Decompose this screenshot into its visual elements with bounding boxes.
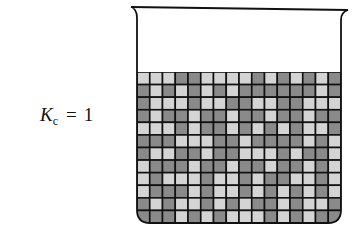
dark-molecule-cell [252,198,265,211]
light-molecule-cell [163,97,176,110]
dark-molecule-cell [214,110,227,123]
light-molecule-cell [163,173,176,186]
dark-molecule-cell [239,173,252,186]
dark-molecule-cell [316,148,329,161]
light-molecule-cell [303,173,316,186]
dark-molecule-cell [163,160,176,173]
dark-molecule-cell [252,72,265,85]
light-molecule-cell [150,198,163,211]
dark-molecule-cell [328,85,341,98]
light-molecule-cell [214,97,227,110]
dark-molecule-cell [239,160,252,173]
dark-molecule-cell [150,210,163,223]
light-molecule-cell [175,173,188,186]
dark-molecule-cell [290,135,303,148]
dark-molecule-cell [316,185,329,198]
light-molecule-cell [150,110,163,123]
dark-molecule-cell [316,210,329,223]
light-molecule-cell [150,148,163,161]
dark-molecule-cell [303,72,316,85]
light-molecule-cell [316,85,329,98]
light-molecule-cell [328,148,341,161]
dark-molecule-cell [137,110,150,123]
light-molecule-cell [303,110,316,123]
dark-molecule-cell [290,97,303,110]
light-molecule-cell [239,198,252,211]
light-molecule-cell [175,85,188,98]
light-molecule-cell [277,185,290,198]
dark-molecule-cell [239,122,252,135]
dark-molecule-cell [265,85,278,98]
dark-molecule-cell [175,148,188,161]
light-molecule-cell [252,148,265,161]
dark-molecule-cell [226,97,239,110]
light-molecule-cell [188,198,201,211]
dark-molecule-cell [328,72,341,85]
light-molecule-cell [252,122,265,135]
dark-molecule-cell [290,110,303,123]
dark-molecule-cell [188,210,201,223]
light-molecule-cell [188,160,201,173]
dark-molecule-cell [226,148,239,161]
light-molecule-cell [316,198,329,211]
dark-molecule-cell [137,148,150,161]
dark-molecule-cell [277,173,290,186]
light-molecule-cell [188,185,201,198]
dark-molecule-cell [137,97,150,110]
light-molecule-cell [239,72,252,85]
light-molecule-cell [239,135,252,148]
dark-molecule-cell [226,198,239,211]
dark-molecule-cell [265,198,278,211]
light-molecule-cell [150,85,163,98]
light-molecule-cell [163,72,176,85]
dark-molecule-cell [188,85,201,98]
light-molecule-cell [252,210,265,223]
dark-molecule-cell [175,110,188,123]
dark-molecule-cell [252,135,265,148]
light-molecule-cell [252,97,265,110]
beaker-diagram [0,0,364,230]
light-molecule-cell [239,210,252,223]
light-molecule-cell [303,97,316,110]
light-molecule-cell [252,173,265,186]
light-molecule-cell [303,185,316,198]
dark-molecule-cell [316,110,329,123]
light-molecule-cell [201,97,214,110]
molecule-grid [137,72,341,223]
light-molecule-cell [150,97,163,110]
light-molecule-cell [265,97,278,110]
light-molecule-cell [175,97,188,110]
light-molecule-cell [201,135,214,148]
light-molecule-cell [201,85,214,98]
light-molecule-cell [201,148,214,161]
dark-molecule-cell [214,85,227,98]
light-molecule-cell [277,210,290,223]
dark-molecule-cell [277,148,290,161]
dark-molecule-cell [290,160,303,173]
light-molecule-cell [265,110,278,123]
light-molecule-cell [265,72,278,85]
light-molecule-cell [214,173,227,186]
light-molecule-cell [226,185,239,198]
light-molecule-cell [214,198,227,211]
light-molecule-cell [163,122,176,135]
dark-molecule-cell [303,85,316,98]
light-molecule-cell [137,160,150,173]
dark-molecule-cell [265,185,278,198]
light-molecule-cell [328,135,341,148]
dark-molecule-cell [163,85,176,98]
dark-molecule-cell [175,122,188,135]
light-molecule-cell [303,122,316,135]
light-molecule-cell [175,198,188,211]
dark-molecule-cell [150,160,163,173]
light-molecule-cell [137,122,150,135]
dark-molecule-cell [163,210,176,223]
light-molecule-cell [277,122,290,135]
light-molecule-cell [316,97,329,110]
dark-molecule-cell [277,72,290,85]
light-molecule-cell [303,210,316,223]
dark-molecule-cell [277,85,290,98]
light-molecule-cell [226,122,239,135]
dark-molecule-cell [150,135,163,148]
dark-molecule-cell [290,210,303,223]
